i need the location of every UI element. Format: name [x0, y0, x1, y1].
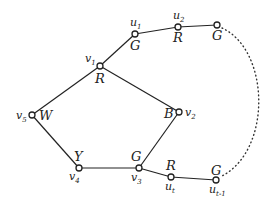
color-label-u3: G: [212, 28, 222, 43]
dotted-path-edge: [222, 28, 259, 176]
name-label-u1: u1: [130, 16, 142, 31]
name-label-v4: v4: [69, 170, 80, 185]
color-label-v1: R: [94, 71, 105, 86]
name-label-u2: u2: [173, 9, 185, 24]
edges: [32, 25, 259, 180]
color-label-ut: R: [165, 158, 176, 173]
graph-svg: R B G Y W G R G R G v1 v2 v3 v4 v5 u1 u2…: [0, 0, 272, 201]
edge-u2-u3: [178, 25, 217, 27]
name-label-v2: v2: [185, 106, 196, 121]
nodes: [29, 22, 220, 183]
name-label-v1: v1: [85, 52, 96, 67]
node-v1: [97, 63, 103, 69]
node-v5: [29, 112, 35, 118]
color-labels: R B G Y W G R G R G: [39, 28, 222, 178]
name-label-v3: v3: [131, 171, 142, 186]
edge-ut-ut1: [171, 177, 216, 180]
name-label-ut1: ut-1: [209, 183, 226, 198]
color-label-v4: Y: [74, 149, 84, 164]
color-label-ut1: G: [211, 163, 221, 178]
name-label-ut: ut: [165, 180, 175, 195]
name-label-v5: v5: [16, 109, 27, 124]
node-v2: [176, 109, 182, 115]
node-v4: [76, 165, 82, 171]
node-u1: [132, 31, 138, 37]
color-label-v3: G: [131, 149, 141, 164]
graph-diagram: R B G Y W G R G R G v1 v2 v3 v4 v5 u1 u2…: [0, 0, 272, 201]
color-label-v5: W: [39, 108, 54, 123]
color-label-u1: G: [130, 38, 140, 53]
color-label-v2: B: [163, 106, 174, 121]
color-label-u2: R: [172, 30, 183, 45]
